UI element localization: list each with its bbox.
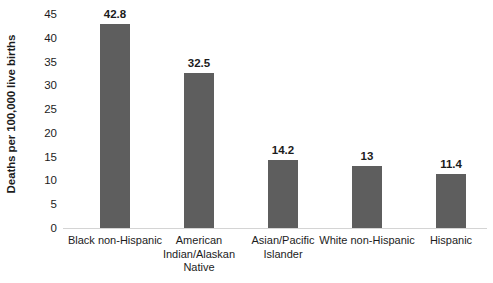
y-axis-tick-label: 10 [44, 174, 57, 186]
bar: 32.5 [184, 73, 214, 228]
x-axis-category-label: Asian/Pacific Islander [235, 234, 331, 261]
x-axis-category-label: American Indian/Alaskan Native [151, 234, 247, 275]
bar-value-label: 42.8 [104, 8, 126, 20]
y-axis-title: Deaths per 100,000 live births [0, 0, 22, 228]
y-axis-tick-label: 15 [44, 151, 57, 163]
y-axis-tick-label: 20 [44, 127, 57, 139]
bar-chart: Deaths per 100,000 live births 051015202… [0, 0, 493, 283]
y-axis-tick-label: 45 [44, 8, 57, 20]
bar-value-label: 11.4 [440, 158, 462, 170]
y-axis-tick-label: 35 [44, 56, 57, 68]
y-axis-tick-label: 0 [51, 222, 57, 234]
bar-value-label: 13 [361, 150, 374, 162]
bar: 13 [352, 166, 382, 228]
x-axis-category-label: Hispanic [403, 234, 493, 248]
bar-value-label: 32.5 [188, 57, 210, 69]
y-axis-tick-label: 40 [44, 32, 57, 44]
x-axis-line [63, 228, 487, 229]
bar-value-label: 14.2 [272, 144, 294, 156]
x-axis-category-label: Black non-Hispanic [67, 234, 163, 248]
y-axis-tick-label: 25 [44, 103, 57, 115]
y-axis-tick-label: 5 [51, 198, 57, 210]
y-axis-tick-label: 30 [44, 79, 57, 91]
bar: 11.4 [436, 174, 466, 228]
bar: 14.2 [268, 160, 298, 228]
x-axis-category-label: White non-Hispanic [319, 234, 415, 248]
bar: 42.8 [100, 24, 130, 228]
plot-area: 05101520253035404542.832.514.21311.4 [63, 14, 483, 228]
